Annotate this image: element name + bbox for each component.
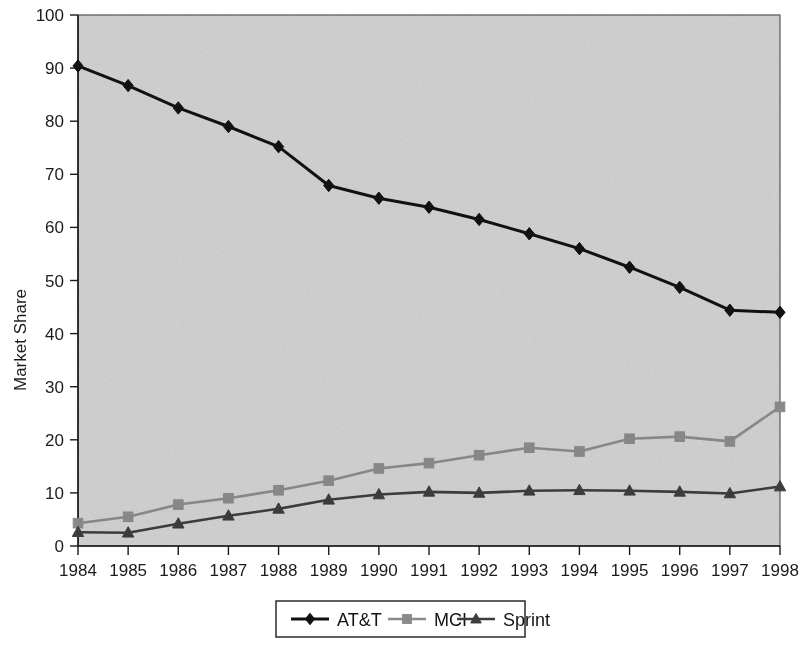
x-axis-tick-label: 1991 [410, 561, 448, 580]
x-axis-tick-label: 1989 [310, 561, 348, 580]
y-axis-tick-label: 90 [45, 59, 64, 78]
x-axis-tick-label: 1992 [460, 561, 498, 580]
y-axis-tick-label: 80 [45, 112, 64, 131]
y-axis-tick-label: 60 [45, 218, 64, 237]
chart-legend: AT&TMCISprint [276, 601, 550, 637]
x-axis-tick-label: 1986 [159, 561, 197, 580]
legend-marker-square-icon [403, 615, 412, 624]
y-axis-tick-label: 0 [55, 537, 64, 556]
y-axis-tick-label: 50 [45, 272, 64, 291]
x-axis-tick-label: 1998 [761, 561, 799, 580]
legend-label: AT&T [337, 610, 382, 630]
y-axis-tick-label: 100 [36, 6, 64, 25]
y-axis-tick-label: 10 [45, 484, 64, 503]
data-point-marker [575, 447, 585, 457]
y-axis-tick-label: 30 [45, 378, 64, 397]
data-point-marker [474, 450, 484, 460]
y-axis-tick-label: 70 [45, 165, 64, 184]
x-axis-tick-label: 1990 [360, 561, 398, 580]
x-axis-tick-label: 1993 [510, 561, 548, 580]
data-point-marker [775, 402, 785, 412]
x-axis-tick-label: 1988 [260, 561, 298, 580]
x-axis-tick-label: 1987 [210, 561, 248, 580]
y-axis-title: Market Share [11, 289, 30, 391]
legend-label: Sprint [503, 610, 550, 630]
data-point-marker [424, 458, 434, 468]
data-point-marker [123, 512, 133, 522]
data-point-marker [725, 437, 735, 447]
market-share-line-chart: 0102030405060708090100 19841985198619871… [0, 0, 801, 660]
x-axis-tick-label: 1994 [561, 561, 599, 580]
x-axis-tick-label: 1995 [611, 561, 649, 580]
x-axis-tick-label: 1985 [109, 561, 147, 580]
y-axis-tick-label: 20 [45, 431, 64, 450]
x-axis-tick-label: 1997 [711, 561, 749, 580]
data-point-marker [524, 443, 534, 453]
data-point-marker [625, 434, 635, 444]
x-axis-tick-label: 1996 [661, 561, 699, 580]
data-point-marker [374, 464, 384, 474]
chart-canvas: 0102030405060708090100 19841985198619871… [0, 0, 801, 660]
data-point-marker [224, 493, 234, 503]
data-point-marker [675, 432, 685, 442]
data-point-marker [324, 476, 334, 486]
x-axis-tick-label: 1984 [59, 561, 97, 580]
y-axis-tick-label: 40 [45, 325, 64, 344]
data-point-marker [274, 485, 284, 495]
data-point-marker [173, 500, 183, 510]
